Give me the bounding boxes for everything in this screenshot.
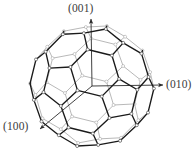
molecule-vertex <box>112 104 115 107</box>
molecule-edge <box>93 118 110 134</box>
fullerene-molecule-diagram <box>0 0 196 152</box>
molecule-vertex <box>59 128 62 131</box>
molecule-vertex <box>86 48 89 51</box>
axis-001-arrow <box>91 19 92 86</box>
molecule-vertex <box>57 134 60 137</box>
molecule-edge <box>75 54 83 76</box>
molecule-vertex <box>61 33 64 36</box>
molecule-vertex <box>99 137 102 140</box>
molecule-vertex <box>118 77 121 80</box>
molecule-vertex <box>77 141 80 144</box>
molecule-edge <box>59 135 77 146</box>
molecule-edge <box>64 27 86 31</box>
molecule-vertex <box>59 104 62 107</box>
molecule-edge <box>119 79 137 90</box>
molecule-edge <box>69 128 93 134</box>
molecule-edge <box>123 43 141 54</box>
molecule-edge <box>98 141 120 145</box>
molecule-edge <box>100 138 121 139</box>
molecule-vertex <box>69 65 72 68</box>
molecule-vertex <box>84 26 87 29</box>
figure-root: (001) (010) (100) <box>0 0 196 152</box>
molecule-vertex <box>46 45 49 48</box>
molecule-vertex <box>140 52 143 55</box>
molecule-edge <box>131 114 136 125</box>
molecule-vertex <box>91 132 94 135</box>
molecule-vertex <box>100 95 103 98</box>
molecule-vertex <box>34 93 37 96</box>
molecule-vertex <box>122 41 125 44</box>
molecule-edge <box>30 84 34 100</box>
molecule-vertex <box>82 32 85 35</box>
molecule-vertex <box>139 78 142 81</box>
molecule-vertex <box>81 74 84 77</box>
molecule-vertex <box>152 87 155 90</box>
molecule-edge <box>96 105 113 122</box>
molecule-edge <box>30 59 36 83</box>
axis-label-001: (001) <box>68 3 93 15</box>
molecule-vertex <box>40 120 43 123</box>
molecule-edge <box>112 43 123 56</box>
molecule-edge <box>91 38 115 44</box>
axis-label-100: (100) <box>3 121 28 133</box>
molecule-vertex <box>73 53 76 56</box>
molecule-vertex <box>130 112 133 115</box>
molecule-edge <box>84 33 88 49</box>
molecule-vertex <box>97 143 100 146</box>
molecule-vertex <box>76 89 79 92</box>
molecule-edge <box>82 76 106 82</box>
molecule-edge <box>77 145 98 146</box>
molecule-vertex <box>122 65 125 68</box>
molecule-vertex <box>42 91 45 94</box>
molecule-edge <box>46 34 63 51</box>
molecule-edge <box>44 92 61 106</box>
molecule-vertex <box>44 50 47 53</box>
molecule-edge <box>109 114 131 118</box>
molecule-edge <box>75 38 92 54</box>
molecule-vertex <box>104 28 107 31</box>
molecule-vertex <box>67 126 70 129</box>
molecule-edge <box>47 82 65 93</box>
molecule-vertex <box>95 121 98 124</box>
molecule-edge <box>102 96 110 118</box>
molecule-vertex <box>35 58 38 61</box>
molecule-edge <box>148 88 154 112</box>
molecule-vertex <box>147 76 150 79</box>
molecule-edge <box>120 125 137 141</box>
molecule-edge <box>114 104 135 105</box>
molecule-edge <box>46 52 50 68</box>
molecule-edge <box>131 90 137 114</box>
molecule-edge <box>42 121 59 135</box>
molecule-edge <box>106 29 123 43</box>
molecule-vertex <box>114 43 117 46</box>
molecule-edge <box>135 80 141 104</box>
molecule-vertex <box>108 116 111 119</box>
molecule-vertex <box>71 115 74 118</box>
molecule-vertex <box>51 57 54 60</box>
molecule-edge <box>44 68 50 92</box>
molecule-edge <box>72 116 96 122</box>
molecule-vertex <box>105 80 108 83</box>
molecule-vertex <box>124 35 127 38</box>
molecule-edge <box>49 67 70 68</box>
molecule-vertex <box>136 88 139 91</box>
molecule-edge <box>63 33 84 34</box>
axis-label-010: (010) <box>166 79 191 91</box>
molecule-vertex <box>119 139 122 142</box>
molecule-edge <box>96 122 100 138</box>
molecule-vertex <box>135 124 138 127</box>
molecule-edge <box>53 54 75 58</box>
molecule-vertex <box>76 145 79 148</box>
molecule-edge <box>135 104 139 120</box>
molecule-vertex <box>149 71 152 74</box>
molecule-vertex <box>48 67 51 70</box>
molecule-vertex <box>32 98 35 101</box>
molecule-vertex <box>110 54 113 57</box>
crystal-axis-arrows <box>40 19 163 129</box>
molecule-vertex <box>63 92 66 95</box>
molecule-vertex <box>147 111 150 114</box>
molecule-edge <box>86 26 107 27</box>
molecule-edge <box>70 50 87 67</box>
molecule-edge <box>123 66 140 80</box>
molecule-edge <box>149 77 154 88</box>
